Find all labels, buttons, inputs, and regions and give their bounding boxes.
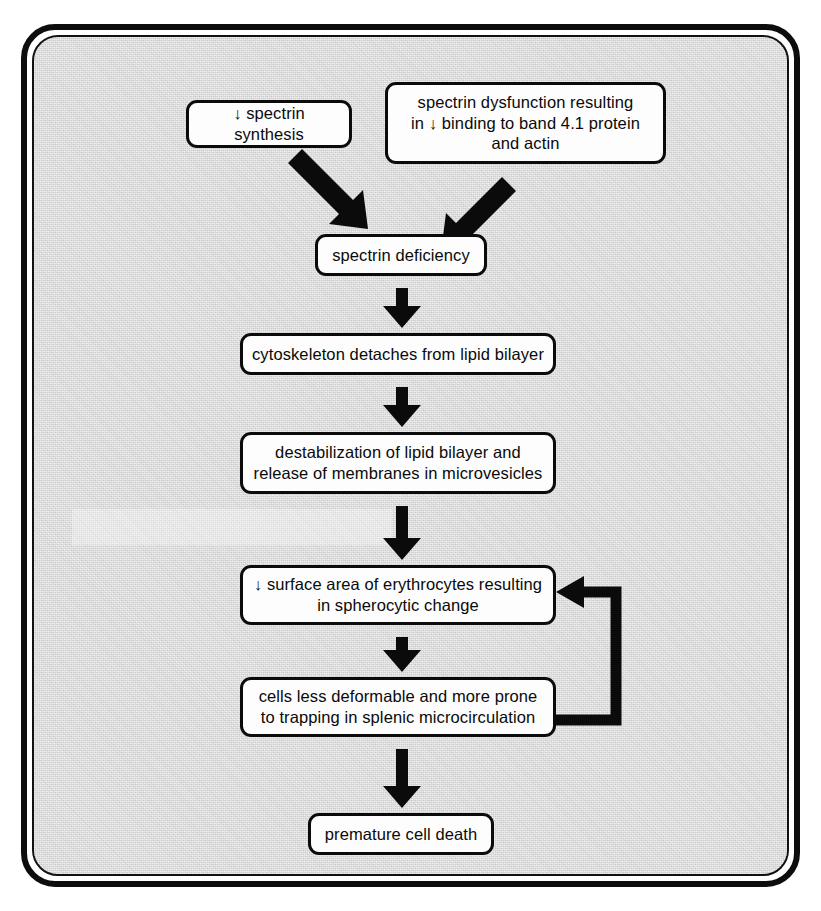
edge-feedback-loop-cells-to-surface-area	[556, 576, 616, 720]
edge-destabilization-to-surface-area	[383, 506, 421, 560]
node-surface-area-reduction: ↓ surface area of erythrocytes resulting…	[240, 565, 556, 625]
edge-cytoskeleton-to-destabilization	[383, 387, 421, 427]
node-destabilization: destabilization of lipid bilayer and rel…	[240, 432, 556, 494]
flowchart-canvas: ↓ spectrin synthesis spectrin dysfunctio…	[0, 0, 821, 911]
node-cytoskeleton-detaches-label: cytoskeleton detaches from lipid bilayer	[252, 344, 544, 365]
node-cells-less-deformable-label: cells less deformable and more prone to …	[259, 686, 538, 727]
edge-cells-deformable-to-premature-death	[383, 749, 421, 808]
node-spectrin-deficiency-label: spectrin deficiency	[332, 245, 470, 266]
node-cells-less-deformable: cells less deformable and more prone to …	[240, 677, 556, 737]
node-spectrin-synthesis-label: ↓ spectrin synthesis	[198, 103, 340, 144]
edge-spectrin-synthesis-to-deficiency	[288, 149, 368, 229]
node-spectrin-deficiency: spectrin deficiency	[315, 234, 487, 276]
node-destabilization-label: destabilization of lipid bilayer and rel…	[254, 442, 543, 483]
node-spectrin-synthesis: ↓ spectrin synthesis	[186, 100, 352, 148]
node-premature-cell-death-label: premature cell death	[325, 824, 477, 845]
node-spectrin-dysfunction: spectrin dysfunction resulting in ↓ bind…	[385, 82, 666, 164]
edge-deficiency-to-cytoskeleton	[383, 288, 421, 328]
node-cytoskeleton-detaches: cytoskeleton detaches from lipid bilayer	[240, 333, 556, 375]
node-premature-cell-death: premature cell death	[308, 813, 494, 855]
node-surface-area-reduction-label: ↓ surface area of erythrocytes resulting…	[254, 574, 542, 615]
node-spectrin-dysfunction-label: spectrin dysfunction resulting in ↓ bind…	[411, 92, 640, 154]
edge-surface-area-to-cells-deformable	[383, 637, 421, 672]
